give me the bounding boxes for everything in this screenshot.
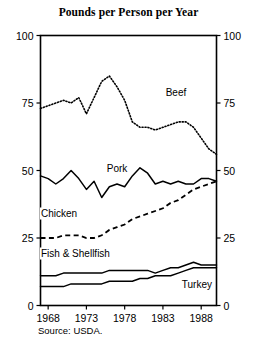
series-label-chicken: Chicken [41,208,77,219]
x-tick-label-1978: 1978 [113,312,137,324]
y-tick-label-left-100: 100 [16,30,34,42]
chart-plot-area: BeefPorkChickenFish & ShellfishTurkey 10… [0,0,257,357]
x-tick-label-1968: 1968 [36,312,60,324]
source-note: Source: USDA. [38,325,102,336]
y-tick-label-right-0: 0 [224,300,230,312]
series-label-fish: Fish & Shellfish [41,248,110,259]
series-label-layer: BeefPorkChickenFish & ShellfishTurkey [40,87,213,291]
series-label-turkey: Turkey [182,279,212,290]
series-label-beef: Beef [166,87,187,98]
y-tick-label-right-25: 25 [224,232,236,244]
y-tick-label-left-75: 75 [22,97,34,109]
y-tick-label-left-0: 0 [28,300,34,312]
x-tick-label-1983: 1983 [151,312,175,324]
series-line-beef [41,76,217,154]
y-tick-label-left-50: 50 [22,165,34,177]
y-tick-label-left-25: 25 [22,232,34,244]
x-tick-label-1988: 1988 [190,312,214,324]
series-label-pork: Pork [107,163,129,174]
y-tick-label-right-100: 100 [224,30,242,42]
y-tick-label-right-75: 75 [224,97,236,109]
y-tick-label-right-50: 50 [224,165,236,177]
x-tick-label-1973: 1973 [75,312,99,324]
chart-figure: Pounds per Person per Year BeefPorkChick… [0,0,257,357]
